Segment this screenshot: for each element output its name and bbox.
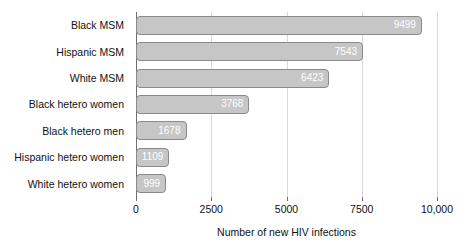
category-label: Black MSM [71, 19, 124, 31]
bar-value-label: 3768 [221, 99, 243, 109]
bar-row: 999 [136, 171, 437, 197]
category-label-cell: Black hetero women [0, 91, 130, 117]
plot-area: 949975436423376816781109999 [136, 12, 437, 197]
x-tick-mark [287, 197, 288, 201]
bar-value-label: 9499 [394, 20, 416, 30]
category-label-cell: Hispanic hetero women [0, 144, 130, 170]
hiv-infections-bar-chart: Black MSMHispanic MSMWhite MSMBlack hete… [0, 0, 466, 246]
bar: 1678 [136, 121, 187, 140]
category-axis-labels: Black MSMHispanic MSMWhite MSMBlack hete… [0, 12, 130, 197]
x-axis-ticks: 025005000750010,000 [136, 197, 437, 203]
x-tick-label: 0 [133, 203, 139, 215]
bar-row: 9499 [136, 12, 437, 38]
category-label-cell: White hetero women [0, 171, 130, 197]
bar: 9499 [136, 16, 422, 35]
category-label-cell: Hispanic MSM [0, 38, 130, 64]
category-label: White MSM [70, 72, 124, 84]
bar: 7543 [136, 42, 363, 61]
bar-value-label: 6423 [301, 73, 323, 83]
bar-row: 1678 [136, 118, 437, 144]
category-label-cell: Black MSM [0, 12, 130, 38]
category-label: White hetero women [28, 178, 124, 190]
category-label: Black hetero women [29, 98, 124, 110]
bar-value-label: 1678 [158, 126, 180, 136]
gridline [437, 12, 438, 197]
bar: 6423 [136, 69, 329, 88]
category-label-cell: White MSM [0, 65, 130, 91]
x-tick-mark [136, 197, 137, 201]
bar-value-label: 999 [143, 179, 160, 189]
bar-row: 1109 [136, 144, 437, 170]
x-tick-label: 7500 [350, 203, 373, 215]
bar: 1109 [136, 148, 169, 167]
x-tick-mark [437, 197, 438, 201]
x-tick-mark [211, 197, 212, 201]
category-label: Hispanic hetero women [14, 151, 124, 163]
bar-row: 7543 [136, 38, 437, 64]
bar-row: 3768 [136, 91, 437, 117]
x-tick-label: 2500 [200, 203, 223, 215]
bar: 3768 [136, 95, 249, 114]
x-axis-title: Number of new HIV infections [136, 226, 437, 238]
bar-value-label: 7543 [335, 47, 357, 57]
x-tick-label: 5000 [275, 203, 298, 215]
x-tick-label: 10,000 [421, 203, 453, 215]
bar-value-label: 1109 [142, 152, 164, 162]
category-label: Black hetero men [42, 125, 124, 137]
bar-row: 6423 [136, 65, 437, 91]
x-tick-mark [362, 197, 363, 201]
category-label: Hispanic MSM [56, 46, 124, 58]
bar: 999 [136, 174, 166, 193]
category-label-cell: Black hetero men [0, 118, 130, 144]
bar-series: 949975436423376816781109999 [136, 12, 437, 197]
